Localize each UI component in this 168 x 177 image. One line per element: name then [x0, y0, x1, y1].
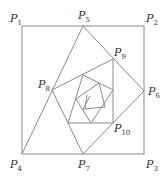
label-p4: P4	[9, 158, 22, 173]
label-p3: P3	[145, 158, 158, 173]
label-p1: P1	[9, 12, 22, 27]
segment	[99, 83, 105, 107]
segment	[76, 99, 91, 123]
label-p8: P8	[37, 78, 50, 93]
label-p6: P6	[147, 85, 160, 100]
segment	[83, 75, 113, 90]
vertex-labels: P1P2P3P4P5P6P7P8P9P10	[9, 9, 160, 173]
label-p5: P5	[77, 9, 90, 24]
segment	[68, 75, 83, 123]
label-p9: P9	[113, 46, 126, 61]
label-p10: P10	[113, 122, 130, 137]
spiral-squares-diagram: P1P2P3P4P5P6P7P8P9P10	[0, 0, 168, 177]
segment	[52, 90, 83, 154]
label-p7: P7	[77, 158, 90, 173]
segment	[83, 107, 105, 109]
label-p2: P2	[145, 12, 158, 27]
